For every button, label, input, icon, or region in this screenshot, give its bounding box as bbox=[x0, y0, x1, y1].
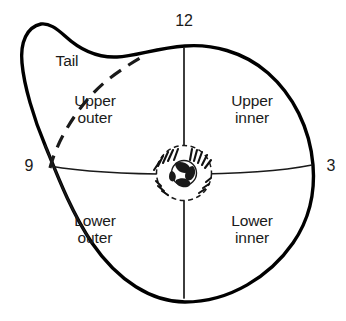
quadrant-label-lower-inner-line1: Lower bbox=[231, 212, 273, 229]
quadrant-label-lower-outer-line1: Lower bbox=[74, 212, 116, 229]
quadrant-label-lower-inner: Lower inner bbox=[231, 212, 273, 247]
quadrant-label-upper-inner-line1: Upper bbox=[231, 92, 273, 109]
breast-quadrant-diagram: Upper outer Upper inner Lower outer Lowe… bbox=[0, 0, 346, 321]
clock-label-9: 9 bbox=[25, 157, 34, 175]
quadrant-label-upper-outer-line2: outer bbox=[74, 109, 116, 126]
diagram-canvas bbox=[0, 0, 346, 321]
quadrant-label-upper-outer: Upper outer bbox=[74, 92, 116, 127]
quadrant-label-upper-inner-line2: inner bbox=[231, 109, 273, 126]
clock-label-3: 3 bbox=[327, 157, 336, 175]
region-label-tail: Tail bbox=[56, 52, 79, 69]
quadrant-label-lower-outer: Lower outer bbox=[74, 212, 116, 247]
quadrant-label-lower-outer-line2: outer bbox=[74, 229, 116, 246]
quadrant-label-upper-outer-line1: Upper bbox=[74, 92, 116, 109]
quadrant-label-upper-inner: Upper inner bbox=[231, 92, 273, 127]
quadrant-label-lower-inner-line2: inner bbox=[231, 229, 273, 246]
clock-label-12: 12 bbox=[175, 12, 193, 30]
